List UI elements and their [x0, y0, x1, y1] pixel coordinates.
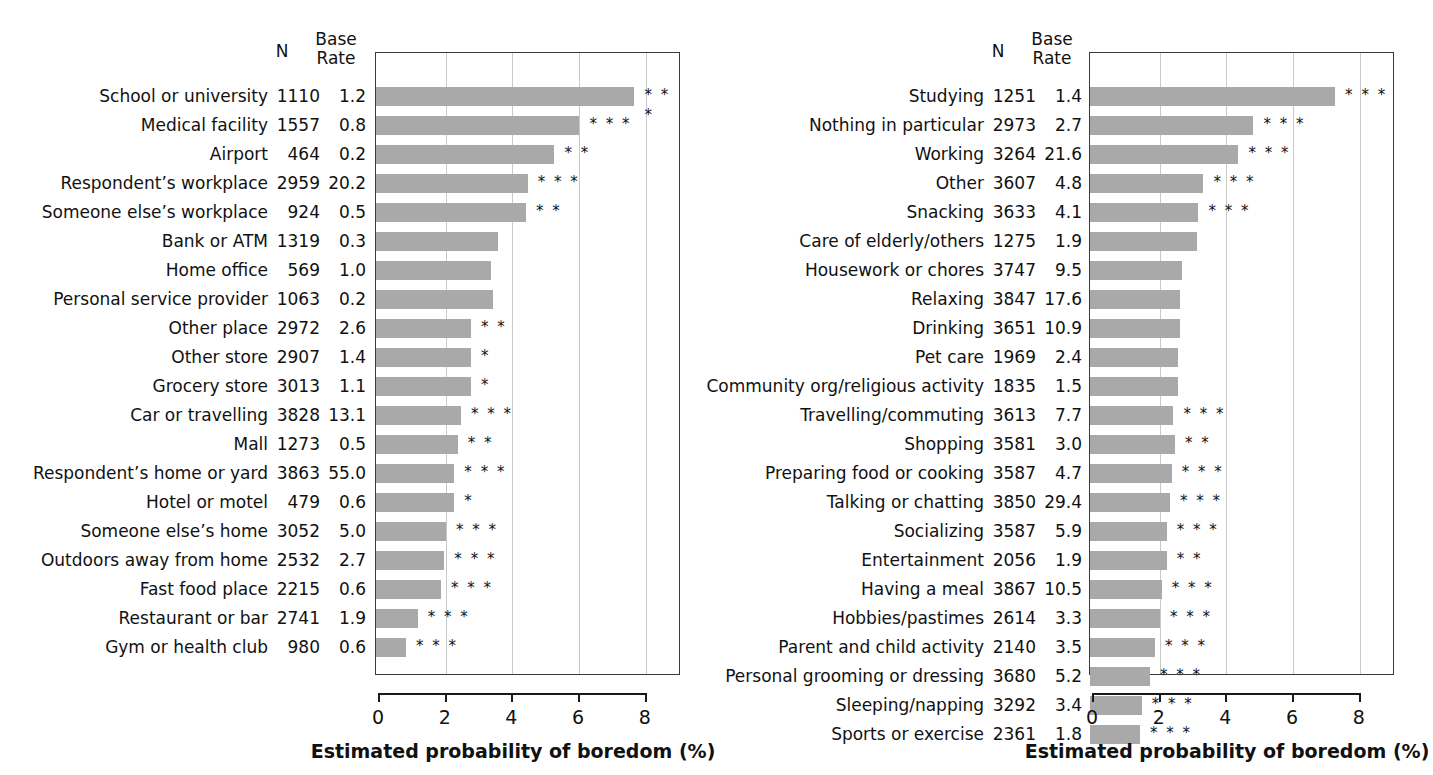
category-label: Relaxing	[911, 289, 990, 309]
bar	[1090, 522, 1167, 541]
category-label: Talking or chatting	[827, 492, 990, 512]
base-rate-value: 0.6	[320, 492, 366, 512]
n-value: 3613	[990, 405, 1036, 425]
base-rate-value: 29.4	[1036, 492, 1082, 512]
category-label: Airport	[210, 144, 274, 164]
category-label: Studying	[909, 86, 990, 106]
bar	[376, 203, 526, 222]
bar-row	[1090, 256, 1393, 285]
base-rate-value: 0.2	[320, 289, 366, 309]
bar-row	[1090, 372, 1393, 401]
significance-marker: * * *	[471, 404, 513, 424]
label-row: Parent and child activity21403.5	[700, 632, 1082, 661]
label-row: Drinking365110.9	[700, 313, 1082, 342]
significance-marker: * * *	[1248, 143, 1290, 163]
significance-marker: * * *	[456, 520, 498, 540]
n-value: 2056	[990, 550, 1036, 570]
significance-marker: * * *	[1182, 462, 1224, 482]
label-row: Medical facility15570.8	[0, 110, 366, 139]
x-tick-label: 8	[630, 706, 660, 728]
base-rate-value: 3.5	[1036, 637, 1082, 657]
bar-row	[376, 285, 679, 314]
significance-marker: * * *	[451, 578, 493, 598]
bar	[376, 232, 498, 251]
base-rate-value: 0.6	[320, 637, 366, 657]
x-tick	[511, 693, 513, 702]
n-value: 3651	[990, 318, 1036, 338]
significance-marker: * * *	[589, 114, 631, 134]
bar	[1090, 174, 1203, 193]
n-value: 1835	[990, 376, 1036, 396]
left-plot-area: * * ** * ** ** * ** ** **** * ** ** * **…	[375, 52, 680, 675]
bar-row: * * *	[1090, 198, 1393, 227]
n-value: 1110	[274, 86, 320, 106]
bar	[1090, 290, 1180, 309]
base-rate-value: 20.2	[320, 173, 366, 193]
significance-marker: * * *	[428, 607, 470, 627]
label-row: Entertainment20561.9	[700, 545, 1082, 574]
base-rate-value: 1.9	[1036, 550, 1082, 570]
category-label: Respondent’s workplace	[60, 173, 274, 193]
bar	[1090, 261, 1182, 280]
base-rate-value: 1.4	[320, 347, 366, 367]
label-row: Having a meal386710.5	[700, 574, 1082, 603]
bar	[1090, 638, 1155, 657]
n-value: 1319	[274, 231, 320, 251]
significance-marker: * * *	[1172, 578, 1214, 598]
bar-row	[1090, 227, 1393, 256]
n-value: 3607	[990, 173, 1036, 193]
label-row: School or university11101.2	[0, 81, 366, 110]
base-rate-value: 4.1	[1036, 202, 1082, 222]
label-row: Grocery store30131.1	[0, 371, 366, 400]
label-row: Other store29071.4	[0, 342, 366, 371]
n-value: 3052	[274, 521, 320, 541]
significance-marker: * * *	[1183, 404, 1225, 424]
base-rate-value: 0.3	[320, 231, 366, 251]
category-label: Someone else’s workplace	[42, 202, 274, 222]
label-row: Respondent’s workplace295920.2	[0, 168, 366, 197]
right-category-labels: Studying12511.4Nothing in particular2973…	[700, 81, 1082, 748]
base-rate-value: 2.7	[1036, 115, 1082, 135]
significance-marker: * * *	[538, 172, 580, 192]
right-header-n-label: N	[978, 42, 1018, 61]
x-tick	[645, 693, 647, 702]
n-value: 3863	[274, 463, 320, 483]
label-row: Shopping35813.0	[700, 429, 1082, 458]
x-tick-label: 2	[1144, 706, 1174, 728]
label-row: Preparing food or cooking35874.7	[700, 458, 1082, 487]
left-header-base-line2: Rate	[308, 49, 364, 68]
n-value: 3587	[990, 521, 1036, 541]
label-row: Someone else’s workplace9240.5	[0, 197, 366, 226]
bar	[1090, 319, 1180, 338]
category-label: Hobbies/pastimes	[832, 608, 990, 628]
right-x-axis-title: Estimated probability of boredom (%)	[952, 740, 1433, 762]
bar-row: * * *	[376, 169, 679, 198]
bar-row	[1090, 285, 1393, 314]
bar-row: * * *	[1090, 604, 1393, 633]
label-row: Nothing in particular29732.7	[700, 110, 1082, 139]
bar	[1090, 464, 1172, 483]
bar	[1090, 406, 1173, 425]
label-row: Personal grooming or dressing36805.2	[700, 661, 1082, 690]
x-tick-label: 4	[1210, 706, 1240, 728]
n-value: 3847	[990, 289, 1036, 309]
bar-row: * * *	[1090, 401, 1393, 430]
category-label: Respondent’s home or yard	[33, 463, 274, 483]
base-rate-value: 0.6	[320, 579, 366, 599]
label-row: Care of elderly/others12751.9	[700, 226, 1082, 255]
x-tick	[445, 693, 447, 702]
bar-row: * * *	[1090, 575, 1393, 604]
category-label: Bank or ATM	[162, 231, 274, 251]
bar	[1090, 348, 1178, 367]
base-rate-value: 4.8	[1036, 173, 1082, 193]
category-label: Personal grooming or dressing	[725, 666, 990, 686]
significance-marker: * * *	[1165, 636, 1207, 656]
base-rate-value: 2.6	[320, 318, 366, 338]
bar	[376, 522, 446, 541]
category-label: Outdoors away from home	[41, 550, 274, 570]
significance-marker: * * *	[1345, 85, 1387, 105]
base-rate-value: 3.3	[1036, 608, 1082, 628]
label-row: Talking or chatting385029.4	[700, 487, 1082, 516]
bar-row: * * *	[1090, 633, 1393, 662]
right-panel: N Base Rate Studying12511.4Nothing in pa…	[700, 0, 1411, 775]
